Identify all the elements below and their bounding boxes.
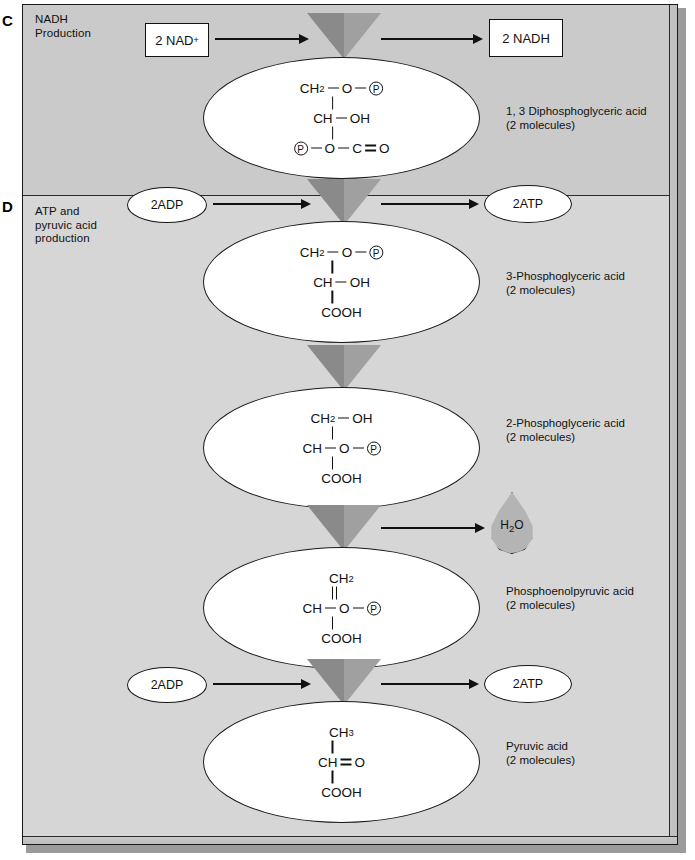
enzyme-funnel-triangle-5 <box>307 659 381 705</box>
bond-dash-icon <box>336 117 347 119</box>
metabolite-name-pg3: 3-Phosphoglyceric acid(2 molecules) <box>506 270 625 297</box>
formula-row: CHO <box>318 754 365 771</box>
output-atp-label-1: 2ATP <box>513 197 543 211</box>
single-bond-icon <box>302 617 380 630</box>
atom-label: O <box>339 601 350 615</box>
phosphate-circle-icon: P <box>294 141 308 155</box>
metabolite-name-pep: Phosphoenolpyruvic acid(2 molecules) <box>506 585 634 612</box>
atom-label: CH <box>318 755 338 769</box>
atom-label: CH <box>300 81 320 95</box>
metabolite-bubble-pg2[interactable]: CH2OHCHOPCOOH <box>203 387 480 509</box>
phosphate-circle-icon: P <box>369 81 383 95</box>
single-bond-icon <box>300 261 383 274</box>
atom-label: COOH <box>321 785 362 799</box>
metabolite-name-pyr-text: Pyruvic acid <box>506 740 568 752</box>
input-adp-pill-1[interactable]: 2ADP <box>127 187 207 223</box>
bond-dash-icon <box>325 607 336 609</box>
arrow-nad-to-enzyme <box>215 34 309 44</box>
double-bond-icon <box>302 587 380 600</box>
input-adp-label-1: 2ADP <box>151 198 184 212</box>
input-nad-label: 2 NAD <box>155 33 193 48</box>
input-nad-box[interactable]: 2 NAD+ <box>145 23 209 57</box>
formula-row: CH3 <box>329 724 354 741</box>
arrow-adp-to-enzyme-2 <box>213 679 311 689</box>
metabolite-name-pyr: Pyruvic acid(2 molecules) <box>506 740 575 767</box>
atom-label: O <box>325 141 336 155</box>
metabolite-bubble-pyr[interactable]: CH3CHOCOOH <box>203 701 480 823</box>
metabolite-name-pg2: 2-Phosphoglyceric acid(2 molecules) <box>506 417 625 444</box>
formula-row: CHOP <box>302 440 380 457</box>
atom-label: CH <box>313 275 333 289</box>
metabolite-count-pep: (2 molecules) <box>506 599 575 611</box>
output-water-label: H2O <box>489 518 535 534</box>
single-bond-icon <box>300 291 383 304</box>
atom-label: CH <box>329 571 349 585</box>
atom-label: OH <box>350 111 370 125</box>
atom-label: CH <box>329 725 349 739</box>
section-letter-d: D <box>2 198 13 215</box>
atom-label: COOH <box>321 631 362 645</box>
formula-dpg: CH2OPCHOHPOCO <box>294 80 390 157</box>
section-d-caption: ATP and pyruvic acid production <box>35 205 97 246</box>
bond-dash-icon <box>328 251 339 253</box>
metabolite-count-pyr: (2 molecules) <box>506 754 575 766</box>
single-bond-icon <box>294 127 390 140</box>
subscript: 2 <box>319 247 324 257</box>
section-c-caption: NADH Production <box>35 13 91 40</box>
single-bond-icon <box>302 457 380 470</box>
output-atp-pill-1[interactable]: 2ATP <box>484 185 572 223</box>
atom-label: O <box>379 141 390 155</box>
enzyme-funnel-triangle-1 <box>307 13 381 59</box>
single-bond-icon <box>302 427 380 440</box>
bond-dash-icon <box>328 87 339 89</box>
atom-label: O <box>354 755 365 769</box>
section-letter-c: C <box>2 12 13 29</box>
output-water-droplet[interactable]: H2O <box>489 492 535 554</box>
metabolite-name-dpg: 1, 3 Diphosphoglyceric acid(2 molecules) <box>506 105 647 132</box>
metabolite-name-pg3-text: 3-Phosphoglyceric acid <box>506 270 625 282</box>
bond-dash-icon <box>355 87 366 89</box>
formula-row: COOH <box>321 630 362 647</box>
bond-dash-icon <box>338 417 349 419</box>
output-atp-pill-2[interactable]: 2ATP <box>484 665 572 703</box>
formula-pyr: CH3CHOCOOH <box>318 724 365 801</box>
atom-label: C <box>352 141 362 155</box>
bond-dash-icon <box>338 147 349 149</box>
single-bond-icon <box>318 741 365 754</box>
formula-pg3: CH2OPCHOHCOOH <box>300 244 383 321</box>
formula-row: CH2OP <box>300 80 383 97</box>
metabolite-count-dpg: (2 molecules) <box>506 119 575 131</box>
input-adp-pill-2[interactable]: 2ADP <box>127 667 207 703</box>
metabolite-bubble-dpg[interactable]: CH2OPCHOHPOCO <box>203 57 480 179</box>
output-nadh-box[interactable]: 2 NADH <box>489 19 563 57</box>
subscript: 2 <box>319 83 324 93</box>
bond-dash-icon <box>336 281 347 283</box>
bond-dash-icon <box>325 447 336 449</box>
double-bond-icon <box>340 759 351 766</box>
metabolite-name-dpg-text: 1, 3 Diphosphoglyceric acid <box>506 105 647 117</box>
subscript: 2 <box>349 573 354 583</box>
input-adp-label-2: 2ADP <box>151 678 184 692</box>
formula-pep: CH2CHOPCOOH <box>302 570 380 647</box>
pathway-panel: NADH Production ATP and pyruvic acid pro… <box>22 4 678 845</box>
single-bond-icon <box>294 97 390 110</box>
enzyme-funnel-triangle-4 <box>307 505 381 551</box>
metabolite-count-pg2: (2 molecules) <box>506 431 575 443</box>
formula-row: POCO <box>294 140 390 157</box>
metabolite-bubble-pep[interactable]: CH2CHOPCOOH <box>203 547 480 669</box>
input-nad-superscript: + <box>194 35 199 45</box>
output-nadh-label: 2 NADH <box>502 31 550 46</box>
formula-row: CHOH <box>313 274 370 291</box>
formula-row: COOH <box>321 470 362 487</box>
atom-label: O <box>342 81 353 95</box>
formula-pg2: CH2OHCHOPCOOH <box>302 410 380 487</box>
bond-dash-icon <box>353 447 364 449</box>
phosphate-circle-icon: P <box>369 245 383 259</box>
formula-row: CH2OH <box>310 410 372 427</box>
formula-row: CHOH <box>313 110 370 127</box>
atom-label: CH <box>310 411 330 425</box>
arrow-enzyme-to-water <box>381 523 485 533</box>
enzyme-funnel-triangle-2 <box>307 179 381 225</box>
arrow-enzyme-to-atp-1 <box>381 199 479 209</box>
metabolite-bubble-pg3[interactable]: CH2OPCHOHCOOH <box>203 221 480 343</box>
